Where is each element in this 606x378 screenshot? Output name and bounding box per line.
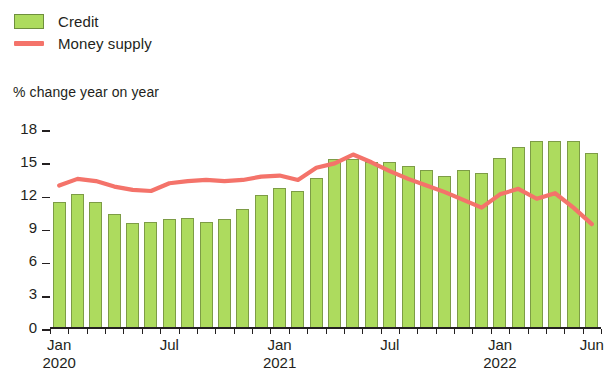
x-axis-tick <box>270 329 271 334</box>
x-axis-label-month: Jan <box>47 336 71 353</box>
y-axis-tick: 12 <box>20 186 50 202</box>
y-axis: 0369121518 <box>0 120 50 336</box>
x-axis-tick <box>509 329 510 334</box>
x-axis-tick <box>564 329 565 334</box>
x-axis-tick <box>472 329 473 334</box>
x-axis-tick <box>528 329 529 334</box>
y-axis-title: % change year on year <box>13 84 159 100</box>
x-axis-label: Jul <box>380 336 399 354</box>
legend-label-money-supply: Money supply <box>58 36 152 51</box>
x-axis-tick <box>307 329 308 334</box>
y-axis-tick: 0 <box>29 319 50 335</box>
y-axis-tick: 15 <box>20 153 50 169</box>
x-axis-label-year: 2022 <box>483 354 516 372</box>
legend-line-money-supply-icon <box>14 36 44 51</box>
x-axis-tick <box>123 329 124 334</box>
y-axis-tick-label: 9 <box>29 220 37 235</box>
y-axis-tick-label: 15 <box>20 154 37 169</box>
chart-legend: Credit Money supply <box>14 10 152 54</box>
x-axis-tick <box>68 329 69 334</box>
x-axis-label: Jun <box>580 336 604 354</box>
x-axis-label: Jan2021 <box>263 336 296 372</box>
x-axis-tick <box>197 329 198 334</box>
x-axis-tick <box>436 329 437 334</box>
y-axis-tick-dash <box>42 230 50 232</box>
y-axis-tick-dash <box>42 263 50 265</box>
y-axis-tick: 18 <box>20 120 50 136</box>
x-axis-tick <box>179 329 180 334</box>
x-axis-tick <box>326 329 327 334</box>
x-axis-label-month: Jan <box>488 336 512 353</box>
y-axis-tick-label: 3 <box>29 286 37 301</box>
x-axis-tick <box>583 329 584 334</box>
x-axis-tick <box>105 329 106 334</box>
x-axis-tick <box>252 329 253 334</box>
x-axis-tick <box>215 329 216 334</box>
x-axis-label-year: 2020 <box>42 354 75 372</box>
x-axis-label: Jul <box>160 336 179 354</box>
x-axis-tick <box>491 329 492 334</box>
x-axis-tick <box>381 329 382 334</box>
y-axis-tick-label: 12 <box>20 187 37 202</box>
x-axis-tick <box>546 329 547 334</box>
x-axis-labels: Jan2020JulJan2021JulJan2022Jun <box>0 336 606 378</box>
x-axis-tick <box>417 329 418 334</box>
x-axis-tick <box>50 329 51 334</box>
x-axis-tick <box>362 329 363 334</box>
x-axis-tick <box>234 329 235 334</box>
plot-area <box>50 128 601 327</box>
y-axis-tick-dash <box>42 197 50 199</box>
legend-item-money-supply: Money supply <box>14 32 152 54</box>
x-axis-label: Jan2022 <box>483 336 516 372</box>
y-axis-tick-label: 6 <box>29 253 37 268</box>
y-axis-tick-dash <box>42 329 50 331</box>
x-axis-tick <box>160 329 161 334</box>
legend-label-credit: Credit <box>58 14 99 29</box>
y-axis-tick-label: 18 <box>20 121 37 136</box>
line-series-money-supply <box>50 128 601 327</box>
legend-swatch-credit-icon <box>14 14 44 29</box>
y-axis-tick: 9 <box>29 220 50 236</box>
x-axis-tick <box>399 329 400 334</box>
x-axis-tick <box>344 329 345 334</box>
y-axis-tick-dash <box>42 163 50 165</box>
x-axis-tick <box>601 329 602 334</box>
x-axis-tick <box>454 329 455 334</box>
y-axis-tick: 6 <box>29 253 50 269</box>
y-axis-tick-dash <box>42 130 50 132</box>
x-axis-label-month: Jun <box>580 336 604 353</box>
x-axis-tick <box>87 329 88 334</box>
x-axis-label-year: 2021 <box>263 354 296 372</box>
y-axis-tick: 3 <box>29 286 50 302</box>
x-axis-label: Jan2020 <box>42 336 75 372</box>
x-axis-label-month: Jul <box>380 336 399 353</box>
x-axis-ticks <box>50 329 601 335</box>
chart-container: Credit Money supply % change year on yea… <box>0 0 606 378</box>
legend-item-credit: Credit <box>14 10 152 32</box>
y-axis-tick-dash <box>42 296 50 298</box>
x-axis-label-month: Jul <box>160 336 179 353</box>
y-axis-tick-label: 0 <box>29 320 37 335</box>
x-axis-tick <box>142 329 143 334</box>
x-axis-tick <box>289 329 290 334</box>
x-axis-label-month: Jan <box>267 336 291 353</box>
